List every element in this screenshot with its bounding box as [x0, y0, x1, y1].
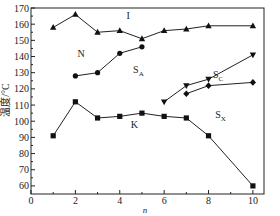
y-axis-label: 温度/°C [0, 83, 11, 117]
phase-label: I [126, 10, 129, 21]
data-point-square [184, 115, 189, 120]
y-tick-label: 100 [14, 116, 29, 127]
data-point-square [206, 133, 211, 138]
data-point-circle [73, 73, 78, 78]
x-tick-label: 8 [206, 195, 211, 206]
phase-label: SC [213, 69, 224, 83]
series-line [75, 47, 142, 76]
plot-frame [31, 8, 264, 194]
data-point-triangle-down [250, 53, 256, 59]
data-point-circle [117, 51, 122, 56]
y-tick-label: 60 [19, 180, 29, 191]
data-point-square [95, 115, 100, 120]
x-tick-label: 2 [73, 195, 78, 206]
series-line [53, 14, 253, 38]
series-line [186, 82, 253, 93]
x-tick-label: 0 [29, 195, 34, 206]
data-point-circle [95, 70, 100, 75]
x-tick-label: 10 [248, 195, 258, 206]
data-point-triangle-up [72, 11, 78, 17]
y-tick-label: 110 [14, 100, 29, 111]
phase-labels: INSASCSXK [78, 10, 226, 129]
data-point-circle [139, 44, 144, 49]
y-tick-label: 80 [19, 148, 29, 159]
x-tick-label: 6 [162, 195, 167, 206]
y-tick-label: 140 [14, 51, 29, 62]
y-axis: 60708090100110120130140150160170 [14, 3, 35, 192]
data-point-triangle-up [117, 27, 123, 33]
x-axis-label: n [143, 205, 148, 215]
data-point-diamond [250, 79, 256, 86]
phase-diagram-chart: 60708090100110120130140150160170 0246810… [0, 0, 280, 216]
y-tick-label: 120 [14, 83, 29, 94]
phase-label: K [131, 119, 139, 130]
data-series [50, 11, 256, 188]
phase-label: SA [133, 64, 144, 78]
data-point-triangle-down [161, 99, 167, 105]
y-tick-label: 150 [14, 35, 29, 46]
phase-label: SX [215, 109, 226, 123]
data-point-square [117, 114, 122, 119]
y-tick-label: 130 [14, 67, 29, 78]
data-point-diamond [205, 82, 211, 89]
y-tick-label: 170 [14, 3, 29, 14]
data-point-square [250, 183, 255, 188]
y-tick-label: 70 [19, 164, 29, 175]
phase-label: N [78, 48, 85, 59]
data-point-square [73, 99, 78, 104]
x-axis: 0246810 [29, 190, 258, 206]
data-point-triangle-down [183, 83, 189, 89]
y-tick-label: 160 [14, 19, 29, 30]
y-tick-label: 90 [19, 132, 29, 143]
data-point-square [162, 114, 167, 119]
data-point-diamond [183, 90, 189, 97]
x-tick-label: 4 [117, 195, 122, 206]
data-point-square [51, 133, 56, 138]
data-point-square [139, 111, 144, 116]
data-point-triangle-up [50, 24, 56, 30]
